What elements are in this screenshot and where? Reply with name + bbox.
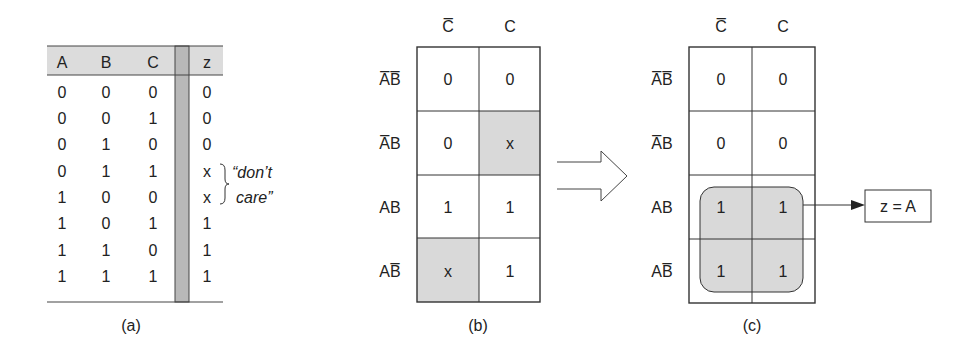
caption-b: (b) [468, 317, 488, 334]
svg-text:1: 1 [203, 215, 212, 232]
kmap-figure: A B C z 0000 0010 0100 011x 100x 1011 [0, 0, 973, 354]
row-header-abbar: AB̅ [379, 263, 400, 280]
kmap-cell: 0 [444, 71, 453, 88]
svg-text:0: 0 [203, 110, 212, 127]
separator-column [175, 46, 189, 302]
header-z: z [203, 54, 211, 71]
kmap-cell: x [506, 135, 514, 152]
svg-text:1: 1 [203, 268, 212, 285]
svg-text:1: 1 [102, 268, 111, 285]
kmap-cell: 1 [717, 263, 726, 280]
svg-text:x: x [203, 189, 211, 206]
row-header-ab: AB [379, 199, 400, 216]
result-expression: z = A [880, 198, 916, 215]
svg-text:0: 0 [102, 215, 111, 232]
brace-icon [220, 164, 229, 204]
svg-text:0: 0 [149, 84, 158, 101]
svg-text:1: 1 [58, 215, 67, 232]
svg-text:x: x [203, 163, 211, 180]
header-b: B [101, 54, 112, 71]
kmap-c: C̅ C A̅B̅ A̅B AB AB̅ 0 0 0 0 1 1 1 1 (c) [651, 18, 815, 334]
kmap-cell: 0 [717, 135, 726, 152]
svg-text:0: 0 [149, 189, 158, 206]
kmap-cell: 1 [779, 263, 788, 280]
row-header-abarbbar: A̅B̅ [651, 71, 672, 88]
caption-a: (a) [121, 317, 141, 334]
truth-table: A B C z 0000 0010 0100 011x 100x 1011 [47, 46, 273, 334]
col-header-cbar: C̅ [442, 18, 454, 35]
dont-care-label-1: “don’t [232, 164, 273, 181]
kmap-cell: 0 [717, 71, 726, 88]
svg-text:1: 1 [102, 163, 111, 180]
kmap-cell: 1 [506, 263, 515, 280]
svg-text:0: 0 [203, 84, 212, 101]
arrowhead-icon [851, 200, 865, 210]
row-header-abarb: A̅B [651, 135, 672, 152]
kmap-cell: 1 [506, 199, 515, 216]
kmap-cell: 0 [779, 71, 788, 88]
row-header-abarb: A̅B [379, 135, 400, 152]
header-c: C [147, 54, 159, 71]
svg-text:1: 1 [58, 242, 67, 259]
hollow-arrow-icon [557, 151, 627, 201]
kmap-cell: x [444, 263, 452, 280]
svg-text:0: 0 [58, 110, 67, 127]
row-header-abbar: AB̅ [651, 263, 672, 280]
svg-text:0: 0 [149, 242, 158, 259]
svg-text:1: 1 [102, 136, 111, 153]
kmap-b: C̅ C A̅B̅ A̅B AB AB̅ 0 0 0 x 1 1 x 1 (b) [379, 18, 540, 334]
row-header-abarbbar: A̅B̅ [379, 71, 400, 88]
caption-c: (c) [743, 317, 762, 334]
svg-text:0: 0 [58, 163, 67, 180]
svg-text:0: 0 [58, 136, 67, 153]
svg-text:1: 1 [102, 242, 111, 259]
col-header-c: C [777, 18, 789, 35]
kmap-cell: 0 [506, 71, 515, 88]
svg-text:1: 1 [58, 189, 67, 206]
svg-text:0: 0 [149, 136, 158, 153]
svg-text:0: 0 [203, 136, 212, 153]
kmap-cell: 1 [444, 199, 453, 216]
dont-care-label-2: care” [236, 189, 273, 206]
header-a: A [57, 54, 68, 71]
kmap-cell: 1 [717, 199, 726, 216]
svg-text:1: 1 [149, 268, 158, 285]
svg-text:0: 0 [58, 84, 67, 101]
svg-text:0: 0 [102, 84, 111, 101]
kmap-cell: 1 [779, 199, 788, 216]
svg-text:0: 0 [102, 110, 111, 127]
svg-text:1: 1 [149, 110, 158, 127]
row-header-ab: AB [651, 199, 672, 216]
svg-text:1: 1 [149, 163, 158, 180]
col-header-c: C [504, 18, 516, 35]
svg-text:0: 0 [102, 189, 111, 206]
truth-table-header-bg [47, 46, 223, 75]
kmap-cell: 0 [779, 135, 788, 152]
kmap-cell: 0 [444, 135, 453, 152]
svg-text:1: 1 [58, 268, 67, 285]
svg-text:1: 1 [149, 215, 158, 232]
col-header-cbar: C̅ [715, 18, 727, 35]
svg-text:1: 1 [203, 242, 212, 259]
